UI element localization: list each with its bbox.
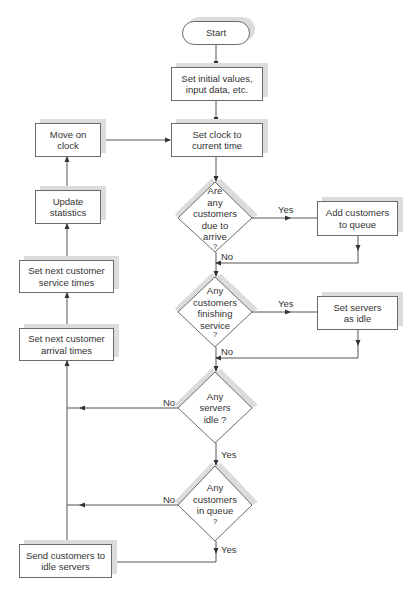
next-arrival-line2: arrival times	[28, 345, 105, 357]
q-finish-line1: Any	[193, 285, 237, 297]
queue-yes-label: Yes	[221, 544, 237, 555]
next-service-line2: service times	[28, 277, 105, 289]
next-arrival-box: Set next customerarrival times	[19, 328, 114, 361]
q-finish-line5: ?	[193, 331, 237, 339]
start-terminal: Start	[182, 21, 250, 45]
q-queue-line2: customers	[193, 494, 237, 506]
finish-yes-label: Yes	[278, 298, 294, 309]
add-to-queue-box: Add customersto queue	[317, 201, 398, 236]
add-queue-line1: Add customers	[326, 207, 389, 219]
queue-no-label: No	[163, 494, 175, 505]
q-arrive-line4: due to	[193, 220, 237, 232]
decision-finishing-service: Any customers finishing service ?	[178, 280, 252, 344]
update-line1: Update	[50, 196, 86, 208]
q-queue-line3: in queue	[193, 505, 237, 517]
set-idle-line1: Set servers	[333, 302, 381, 314]
next-service-line1: Set next customer	[28, 265, 105, 277]
init-line1: Set initial values,	[181, 73, 252, 85]
init-values-box: Set initial values,input data, etc.	[171, 67, 263, 101]
q-idle-line2: servers	[199, 402, 230, 414]
idle-no-label: No	[163, 397, 175, 408]
q-arrive-line6: ?	[193, 243, 237, 251]
add-queue-line2: to queue	[326, 219, 389, 231]
q-finish-line3: finishing	[193, 308, 237, 320]
move-clock-box: Move onclock	[35, 123, 101, 157]
q-arrive-line2: any	[193, 197, 237, 209]
init-line2: input data, etc.	[181, 84, 252, 96]
decision-customers-arrive: Are any customers due to arrive ?	[178, 184, 252, 252]
clock-line1: Set clock to	[192, 129, 242, 141]
send-customers-box: Send customers toidle servers	[19, 544, 112, 578]
move-line1: Move on	[50, 129, 86, 141]
q-arrive-line3: customers	[193, 208, 237, 220]
q-finish-line2: customers	[193, 297, 237, 309]
arrive-yes-label: Yes	[278, 204, 294, 215]
update-statistics-box: Updatestatistics	[35, 190, 101, 224]
next-arrival-line1: Set next customer	[28, 333, 105, 345]
q-idle-line3: idle ?	[199, 414, 230, 426]
set-idle-line2: as idle	[333, 313, 381, 325]
send-line1: Send customers to	[26, 550, 105, 562]
update-line2: statistics	[50, 207, 86, 219]
arrive-no-label: No	[221, 251, 233, 262]
q-queue-line1: Any	[193, 482, 237, 494]
next-service-box: Set next customerservice times	[19, 260, 114, 293]
start-label: Start	[206, 27, 226, 39]
q-idle-line1: Any	[199, 391, 230, 403]
move-line2: clock	[50, 140, 86, 152]
q-arrive-line1: Are	[193, 185, 237, 197]
send-line2: idle servers	[26, 561, 105, 573]
queue-simulation-flowchart: Start Set initial values,input data, etc…	[0, 0, 414, 592]
decision-customers-in-queue: Any customers in queue ?	[178, 478, 252, 530]
set-servers-idle-box: Set serversas idle	[317, 296, 398, 330]
finish-no-label: No	[221, 346, 233, 357]
decision-servers-idle: Any servers idle ?	[178, 386, 252, 430]
set-clock-box: Set clock tocurrent time	[171, 123, 263, 157]
idle-yes-label: Yes	[221, 449, 237, 460]
q-queue-line4: ?	[193, 517, 237, 526]
clock-line2: current time	[192, 140, 242, 152]
